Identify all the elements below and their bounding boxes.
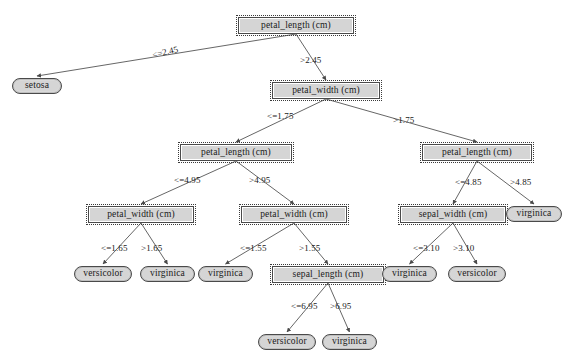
split-node: petal_width (cm)	[241, 206, 347, 223]
node-label: versicolor	[457, 269, 497, 279]
node-label: virginica	[332, 337, 367, 347]
node-label: petal_width (cm)	[107, 210, 175, 220]
node-label: setosa	[25, 81, 49, 91]
edge-label: >2.45	[300, 56, 321, 65]
leaf-node: versicolor	[448, 266, 506, 282]
node-label: petal_length (cm)	[261, 21, 331, 31]
node-label: virginica	[150, 269, 185, 279]
leaf-node: virginica	[198, 266, 253, 282]
node-label: sepal_width (cm)	[419, 210, 488, 220]
node-label: petal_width (cm)	[260, 210, 328, 220]
edge-label: >4.85	[510, 178, 531, 187]
edge-label: <=1.55	[240, 244, 267, 253]
edge-label: >3.10	[453, 244, 474, 253]
split-node: petal_length (cm)	[238, 17, 354, 34]
leaf-node: versicolor	[258, 334, 316, 350]
split-node: petal_width (cm)	[88, 206, 194, 223]
decision-tree-diagram: petal_length (cm)setosapetal_width (cm)p…	[0, 0, 570, 364]
edge-layer	[0, 0, 570, 364]
split-node: petal_length (cm)	[422, 144, 532, 161]
leaf-node: virginica	[506, 206, 562, 222]
split-node: sepal_width (cm)	[400, 206, 506, 223]
node-label: virginica	[208, 269, 243, 279]
node-label: petal_length (cm)	[442, 148, 512, 158]
edge-label: >1.55	[299, 244, 320, 253]
edge-label: <=4.85	[455, 178, 482, 187]
edge-label: >1.75	[393, 116, 414, 125]
edge-label: <=1.65	[101, 244, 128, 253]
leaf-node: versicolor	[74, 266, 132, 282]
edge-label: >1.65	[141, 244, 162, 253]
node-label: virginica	[392, 269, 427, 279]
node-label: sepal_length (cm)	[293, 270, 364, 280]
split-node: petal_length (cm)	[180, 144, 292, 161]
edge-label: <=4.95	[174, 176, 201, 185]
node-label: virginica	[517, 209, 552, 219]
edge-label: <=6.95	[291, 302, 318, 311]
split-node: sepal_length (cm)	[272, 266, 384, 283]
leaf-node: setosa	[12, 78, 62, 94]
edge-label: >6.95	[330, 302, 351, 311]
leaf-node: virginica	[322, 334, 377, 350]
node-label: petal_width (cm)	[292, 86, 360, 96]
split-node: petal_width (cm)	[272, 82, 380, 99]
node-label: petal_length (cm)	[201, 148, 271, 158]
node-label: versicolor	[83, 269, 123, 279]
leaf-node: virginica	[140, 266, 195, 282]
edge-label: <=3.10	[413, 244, 440, 253]
edge-label: <=1.75	[267, 112, 294, 121]
edge-label: >4.95	[249, 176, 270, 185]
leaf-node: virginica	[382, 266, 437, 282]
node-label: versicolor	[267, 337, 307, 347]
